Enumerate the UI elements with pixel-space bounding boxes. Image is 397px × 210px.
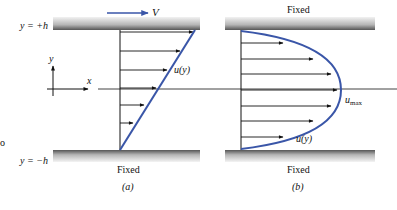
caption-a: (a) (122, 181, 134, 193)
fixed-label-b-top: Fixed (287, 4, 310, 15)
profile-label-b: u(y) (296, 133, 313, 145)
bottom-plate-label-a: y = −h (19, 155, 48, 166)
umax-label: umax (345, 94, 363, 107)
bottom-plate-a (53, 150, 200, 162)
bottom-plate-b (225, 150, 375, 162)
fixed-label-a: Fixed (117, 164, 140, 175)
x-axis-label: x (86, 75, 92, 86)
top-plate-label-a: y = +h (19, 20, 48, 31)
top-plate-a (53, 17, 200, 30)
velocity-label: V (152, 6, 160, 18)
linear-velocity-profile (120, 30, 195, 150)
top-plate-b (225, 17, 375, 30)
flow-diagram: o V y = +h y = −h Fixed (a) y x u(y) (0, 0, 397, 210)
caption-b: (b) (292, 181, 304, 193)
y-axis-label: y (48, 53, 54, 64)
fixed-label-b-bottom: Fixed (287, 164, 310, 175)
margin-fragment: o (0, 137, 5, 148)
panel-b: Fixed Fixed (b) umax u(y) (225, 4, 375, 193)
profile-label-a: u(y) (174, 64, 191, 76)
